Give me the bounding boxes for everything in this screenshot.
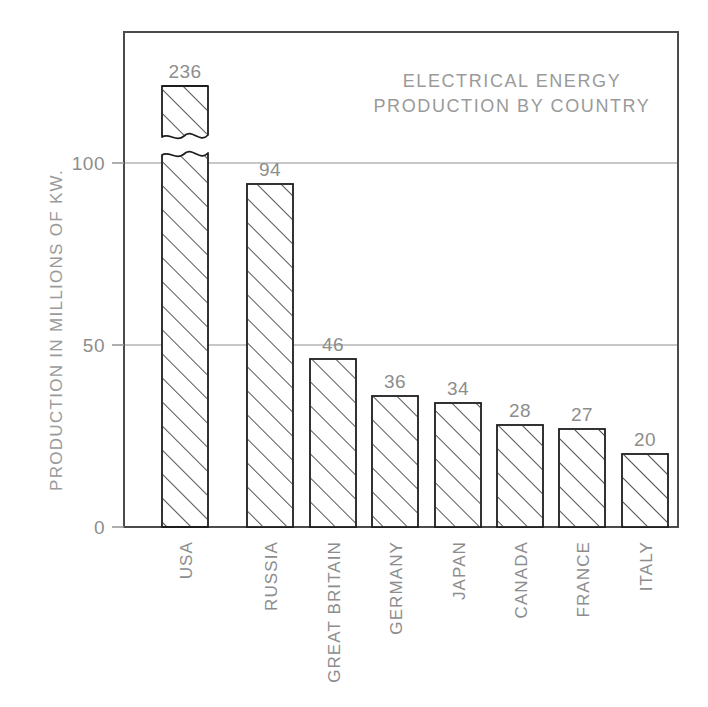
bar-value-russia: 94 <box>259 159 281 180</box>
bar-value-germany: 36 <box>384 371 406 392</box>
cat-label-usa: USA <box>177 541 196 579</box>
ytick-label-50: 50 <box>83 335 105 356</box>
bar-usa-lower-hatch <box>163 153 207 526</box>
bar-chart-svg: 100 50 0 PRODUCTION IN MILLIONS OF KW. E… <box>0 0 708 707</box>
chart-title-line-2: PRODUCTION BY COUNTRY <box>374 96 651 116</box>
ytick-label-100: 100 <box>72 153 105 174</box>
bar-germany-hatch <box>373 397 417 526</box>
cat-label-italy: ITALY <box>637 541 656 591</box>
bar-value-canada: 28 <box>509 400 531 421</box>
bar-canada-hatch <box>498 426 542 526</box>
y-axis-title: PRODUCTION IN MILLIONS OF KW. <box>47 169 66 491</box>
cat-label-germany: GERMANY <box>387 541 406 635</box>
bar-usa[interactable]: 236 <box>162 61 208 527</box>
bar-value-france: 27 <box>571 404 593 425</box>
bar-value-italy: 20 <box>634 429 656 450</box>
cat-label-canada: CANADA <box>512 541 531 618</box>
cat-label-japan: JAPAN <box>450 541 469 600</box>
chart-container: 100 50 0 PRODUCTION IN MILLIONS OF KW. E… <box>0 0 708 707</box>
bar-france-hatch <box>560 430 604 526</box>
bar-usa-upper-hatch <box>163 87 207 137</box>
chart-title-line-1: ELECTRICAL ENERGY <box>403 71 622 91</box>
bar-value-great-britain: 46 <box>322 334 344 355</box>
bar-great-britain-hatch <box>311 360 355 526</box>
cat-label-france: FRANCE <box>574 541 593 618</box>
bar-value-usa: 236 <box>168 61 201 82</box>
bar-russia[interactable]: 94 <box>247 159 293 527</box>
bar-great-britain[interactable]: 46 <box>310 334 356 527</box>
bar-russia-hatch <box>248 185 292 526</box>
ytick-label-0: 0 <box>94 517 105 538</box>
bar-italy-hatch <box>623 455 667 526</box>
bar-japan-hatch <box>436 404 480 526</box>
bar-value-japan: 34 <box>447 378 469 399</box>
cat-label-great-britain: GREAT BRITAIN <box>325 541 344 683</box>
y-axis-title-group: PRODUCTION IN MILLIONS OF KW. <box>47 169 66 491</box>
cat-label-russia: RUSSIA <box>262 541 281 611</box>
